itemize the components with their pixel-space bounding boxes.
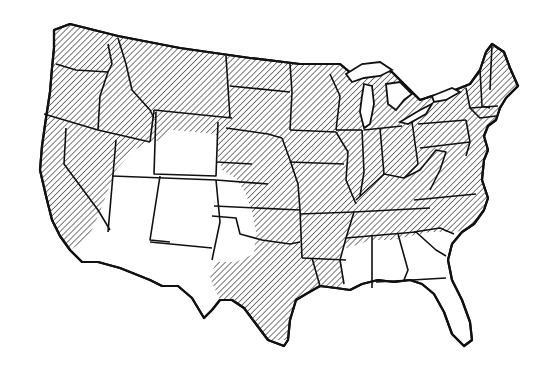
us-map: Shaded region xyxy=(0,0,553,381)
us-map-svg xyxy=(0,0,553,381)
